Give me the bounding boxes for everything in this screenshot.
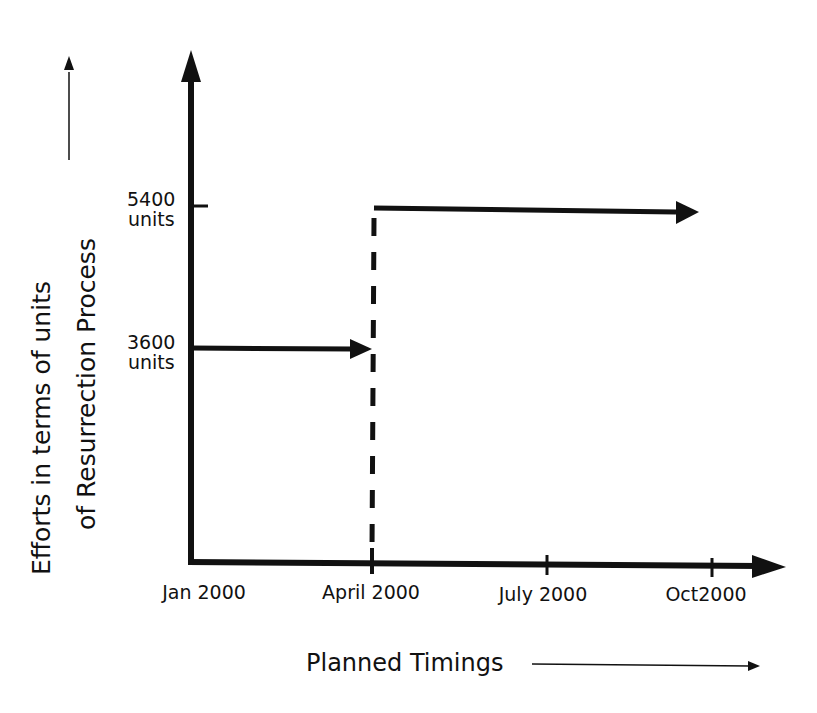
y-tick-unit-3600: units xyxy=(128,351,175,373)
step-transition-dashed xyxy=(372,218,374,550)
x-axis-title: Planned Timings xyxy=(306,649,760,677)
y-tick-label-3600: 3600 xyxy=(127,331,175,353)
y-tick-unit-5400: units xyxy=(128,208,175,230)
x-tick-labels: Jan 2000 April 2000 July 2000 Oct2000 xyxy=(161,581,746,605)
x-axis-title-text: Planned Timings xyxy=(306,649,503,677)
x-tick-label-july: July 2000 xyxy=(498,583,588,605)
x-title-arrow-icon xyxy=(748,661,760,671)
segment-5400 xyxy=(374,208,676,212)
y-axis-title-line1: Efforts in terms of units xyxy=(27,281,56,575)
y-tick-label-5400: 5400 xyxy=(127,188,175,210)
x-axis xyxy=(188,548,786,578)
x-tick-label-april: April 2000 xyxy=(322,581,420,603)
y-axis-title-line2: of Resurrection Process xyxy=(72,238,101,530)
y-axis-title: Efforts in terms of units of Resurrectio… xyxy=(27,56,101,575)
segment-5400-arrowhead-icon xyxy=(676,201,699,224)
y-axis-arrowhead-icon xyxy=(181,50,201,82)
y-tick-labels: 5400 units 3600 units xyxy=(127,188,175,373)
series-planned-effort xyxy=(191,201,699,550)
y-title-arrow-icon xyxy=(64,56,74,70)
x-tick-label-oct: Oct2000 xyxy=(665,583,746,605)
segment-3600-arrowhead-icon xyxy=(350,339,372,359)
segment-3600 xyxy=(191,348,352,349)
x-axis-arrowhead-icon xyxy=(752,555,786,578)
step-chart: 5400 units 3600 units Jan 2000 April 200… xyxy=(0,0,817,713)
y-axis xyxy=(181,50,208,562)
x-tick-label-jan: Jan 2000 xyxy=(161,581,246,603)
